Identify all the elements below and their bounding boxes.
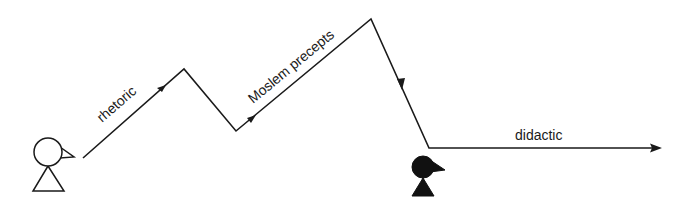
sender-head-icon bbox=[34, 138, 62, 166]
receiver-body-icon bbox=[412, 178, 434, 196]
receiver-figure bbox=[412, 156, 445, 196]
arrowhead-segment3-icon bbox=[397, 78, 405, 90]
receiver-head-icon bbox=[412, 156, 434, 178]
label-moslem-precepts: Moslem precepts bbox=[245, 26, 337, 106]
sender-body-icon bbox=[33, 166, 64, 191]
arrowhead-segment2-icon bbox=[247, 115, 256, 123]
label-rhetoric: rhetoric bbox=[93, 83, 139, 126]
diagram-canvas: rhetoric Moslem precepts didactic bbox=[0, 0, 698, 214]
sender-figure bbox=[33, 138, 74, 191]
label-didactic: didactic bbox=[515, 127, 562, 143]
communication-path bbox=[83, 19, 656, 158]
